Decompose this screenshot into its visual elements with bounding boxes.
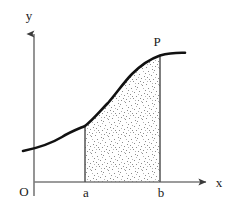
- y-axis-label: y: [26, 8, 33, 23]
- x-axis-label: x: [216, 175, 223, 190]
- shaded-area: [85, 56, 160, 183]
- origin-label: O: [19, 184, 28, 199]
- integral-area-diagram: y x O a b P: [0, 0, 233, 214]
- lower-limit-label-a: a: [83, 185, 89, 200]
- point-label-p: P: [153, 34, 160, 49]
- upper-limit-label-b: b: [158, 185, 165, 200]
- figure-canvas: y x O a b P: [0, 0, 233, 214]
